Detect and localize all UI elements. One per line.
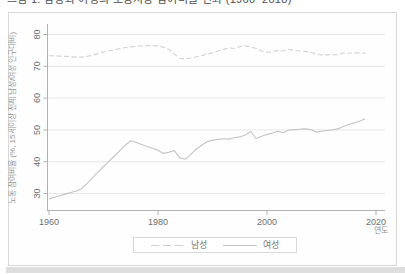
y-tick-label: 70 bbox=[32, 61, 42, 71]
legend-label-male: 남성 bbox=[191, 238, 207, 252]
male-series-line bbox=[49, 46, 365, 59]
page-background-strip bbox=[6, 267, 405, 273]
female-line-sample-icon bbox=[223, 245, 257, 246]
y-tick-label: 40 bbox=[32, 157, 42, 167]
y-tick-label: 60 bbox=[32, 93, 42, 103]
legend-item-female: 여성 bbox=[223, 238, 279, 252]
x-tick-label: 1960 bbox=[39, 217, 59, 227]
x-tick-label: 2000 bbox=[257, 217, 277, 227]
legend-item-male: 남성 bbox=[151, 238, 207, 252]
x-axis-title: 연도 bbox=[374, 226, 388, 235]
female-series-line bbox=[49, 119, 365, 199]
legend-box: 남성 여성 bbox=[133, 237, 297, 253]
y-tick-label: 50 bbox=[32, 125, 42, 135]
legend-label-female: 여성 bbox=[263, 238, 279, 252]
chart-svg: 3040506070801960198020002020연도노동 참여비율 (%… bbox=[0, 0, 405, 274]
y-tick-label: 30 bbox=[32, 188, 42, 198]
male-line-sample-icon bbox=[151, 245, 185, 246]
y-tick-label: 80 bbox=[32, 29, 42, 39]
x-tick-label: 1980 bbox=[148, 217, 168, 227]
y-axis-title: 노동 참여비율 (%, 15세이상 전체 남성/여성 인구대비) bbox=[7, 32, 17, 204]
